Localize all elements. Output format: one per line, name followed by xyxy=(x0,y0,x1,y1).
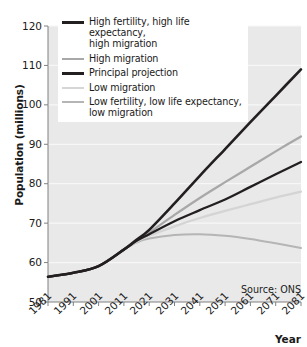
y-axis-title: Population (millions) xyxy=(13,65,25,225)
legend-label: High fertility, high life expectancy,hig… xyxy=(89,16,245,49)
legend-item: High migration xyxy=(62,53,245,64)
chart-legend: High fertility, high life expectancy,hig… xyxy=(58,12,248,122)
legend-label-line2: low migration xyxy=(89,107,242,118)
legend-line-swatch xyxy=(62,21,84,24)
legend-label-line1: Low migration xyxy=(89,82,155,93)
x-tick-label: 1981 xyxy=(27,290,54,317)
x-axis-title: Year xyxy=(275,333,301,345)
x-tick-label: 2011 xyxy=(103,290,130,317)
x-tick-label: 1991 xyxy=(52,290,79,317)
legend-label-line1: High migration xyxy=(89,53,158,64)
legend-label: Principal projection xyxy=(89,67,178,78)
legend-item: Low fertility, low life expectancy,low m… xyxy=(62,96,245,118)
chart-figure: 1201101009080706050 19811991200120112021… xyxy=(0,0,307,347)
legend-line-swatch xyxy=(62,58,84,61)
legend-item: Low migration xyxy=(62,82,245,93)
legend-line-swatch xyxy=(62,101,84,103)
x-tick-label: 2021 xyxy=(128,290,155,317)
legend-label-line1: Low fertility, low life expectancy, xyxy=(89,96,242,107)
x-tick-label: 2001 xyxy=(78,290,105,317)
legend-label-line1: High fertility, high life expectancy, xyxy=(89,16,245,38)
legend-label-line2: high migration xyxy=(89,38,245,49)
x-tick-label: 2051 xyxy=(204,290,231,317)
legend-line-swatch xyxy=(62,87,84,90)
legend-line-swatch xyxy=(62,72,84,75)
legend-label: High migration xyxy=(89,53,158,64)
source-annotation: Source: ONS xyxy=(241,284,301,295)
legend-item: Principal projection xyxy=(62,67,245,78)
legend-label: Low fertility, low life expectancy,low m… xyxy=(89,96,242,118)
legend-label: Low migration xyxy=(89,82,155,93)
x-tick-label: 2041 xyxy=(179,290,206,317)
legend-label-line1: Principal projection xyxy=(89,67,178,78)
legend-item: High fertility, high life expectancy,hig… xyxy=(62,16,245,49)
x-tick-label: 2031 xyxy=(154,290,181,317)
